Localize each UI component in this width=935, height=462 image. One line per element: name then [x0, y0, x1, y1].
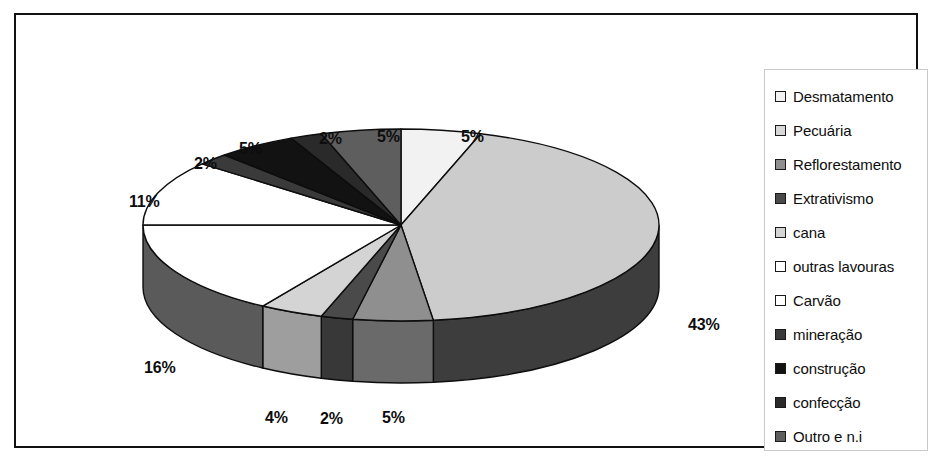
- pct-label-confeccao: 2%: [319, 130, 342, 148]
- pie-slice-side: [353, 319, 434, 383]
- legend-item[interactable]: Outro e n.i: [765, 419, 927, 453]
- legend-item[interactable]: Reflorestamento: [765, 147, 927, 181]
- pct-label-construcao: 5%: [239, 140, 262, 158]
- legend-item[interactable]: mineração: [765, 317, 927, 351]
- pct-label-pecuaria: 43%: [688, 316, 719, 334]
- chart-legend: DesmatamentoPecuáriaReflorestamentoExtra…: [764, 69, 928, 451]
- legend-swatch-icon: [775, 431, 786, 442]
- legend-item[interactable]: Extrativismo: [765, 181, 927, 215]
- pct-label-extrativismo: 2%: [320, 410, 343, 428]
- legend-item[interactable]: Desmatamento: [765, 79, 927, 113]
- pct-label-reflorestamento: 5%: [382, 409, 405, 427]
- legend-item-label: Extrativismo: [793, 191, 873, 206]
- legend-item[interactable]: construção: [765, 351, 927, 385]
- pct-label-mineracao: 2%: [194, 155, 217, 173]
- legend-item-label: confecção: [793, 395, 860, 410]
- legend-item-label: mineração: [793, 327, 862, 342]
- chart-page: 5%43%5%2%5%2%11%16%4%2%5% DesmatamentoPe…: [0, 0, 935, 462]
- legend-item-label: outras lavouras: [793, 259, 894, 274]
- legend-item-label: Pecuária: [793, 123, 851, 138]
- legend-item-label: Carvão: [793, 293, 841, 308]
- pie-top-slices: [143, 129, 659, 321]
- legend-swatch-icon: [775, 91, 786, 102]
- legend-item[interactable]: Carvão: [765, 283, 927, 317]
- legend-item[interactable]: outras lavouras: [765, 249, 927, 283]
- legend-swatch-icon: [775, 227, 786, 238]
- legend-item[interactable]: confecção: [765, 385, 927, 419]
- pie-chart-plot-area: 5%43%5%2%5%2%11%16%4%2%5%: [36, 35, 756, 455]
- legend-swatch-icon: [775, 159, 786, 170]
- legend-swatch-icon: [775, 193, 786, 204]
- pct-label-carvao: 11%: [129, 193, 160, 211]
- pct-label-desmatamento: 5%: [461, 128, 484, 146]
- pie-slice-side: [321, 316, 352, 381]
- legend-item-label: Outro e n.i: [793, 429, 862, 444]
- pct-label-outras-lavouras: 16%: [144, 359, 175, 377]
- pct-label-cana: 4%: [265, 409, 288, 427]
- legend-swatch-icon: [775, 363, 786, 374]
- pie-slice-side: [263, 306, 322, 378]
- legend-swatch-icon: [775, 329, 786, 340]
- legend-item-label: Desmatamento: [793, 89, 894, 104]
- legend-item[interactable]: cana: [765, 215, 927, 249]
- legend-item-label: construção: [793, 361, 865, 376]
- legend-item-label: Reflorestamento: [793, 157, 902, 172]
- chart-frame: 5%43%5%2%5%2%11%16%4%2%5% DesmatamentoPe…: [14, 13, 918, 448]
- legend-swatch-icon: [775, 125, 786, 136]
- legend-swatch-icon: [775, 261, 786, 272]
- legend-item[interactable]: Pecuária: [765, 113, 927, 147]
- pie-chart-svg: [36, 35, 756, 455]
- legend-swatch-icon: [775, 397, 786, 408]
- pct-label-outro-e-ni: 5%: [377, 128, 400, 146]
- legend-swatch-icon: [775, 295, 786, 306]
- legend-item-label: cana: [793, 225, 825, 240]
